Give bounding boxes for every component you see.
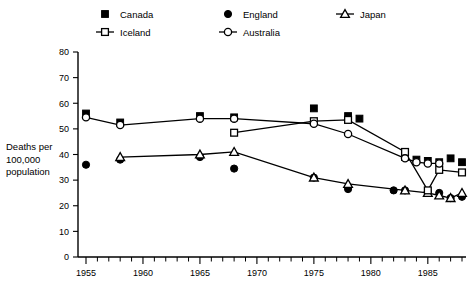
legend-marker-iceland: [102, 29, 109, 36]
y-axis-tick-label: 50: [59, 124, 69, 134]
y-axis-title-line: 100,000: [6, 154, 40, 165]
data-point-australia: [413, 159, 420, 166]
series-markers-australia: [82, 114, 442, 167]
x-axis-tick-label: 1980: [361, 268, 381, 278]
data-point-iceland: [424, 187, 431, 194]
data-point-japan: [230, 148, 239, 156]
y-axis-tick-label: 70: [59, 73, 69, 83]
y-axis-tick-label: 30: [59, 175, 69, 185]
legend-item-iceland[interactable]: Iceland: [96, 27, 151, 38]
data-point-canada: [459, 159, 466, 166]
series-japan: [120, 152, 462, 198]
legend-item-australia[interactable]: Australia: [219, 27, 281, 38]
data-point-england: [231, 165, 238, 172]
mortality-line-chart: CanadaEnglandJapanIcelandAustralia 01020…: [0, 0, 472, 295]
legend-label-japan: Japan: [360, 9, 386, 20]
data-point-england: [82, 161, 89, 168]
data-point-australia: [424, 160, 431, 167]
x-axis-tick-label: 1975: [304, 268, 324, 278]
data-point-australia: [401, 155, 408, 162]
x-axis-tick-label: 1955: [76, 268, 96, 278]
legend-item-canada[interactable]: Canada: [102, 9, 154, 20]
data-point-iceland: [231, 129, 238, 136]
legend-item-japan[interactable]: Japan: [336, 9, 386, 20]
x-axis-tick-label: 1970: [247, 268, 267, 278]
data-point-australia: [344, 130, 351, 137]
data-point-australia: [436, 160, 443, 167]
data-point-japan: [458, 189, 467, 197]
y-axis-title: Deaths per100,000population: [6, 141, 52, 177]
legend-marker-australia: [224, 28, 231, 35]
legend-marker-england: [224, 10, 231, 17]
legend-item-england[interactable]: England: [224, 9, 277, 20]
y-axis-title-line: population: [6, 166, 50, 177]
legend-marker-canada: [102, 11, 109, 18]
series-line-japan: [120, 152, 462, 198]
y-axis-tick-label: 20: [59, 201, 69, 211]
data-point-australia: [231, 115, 238, 122]
y-axis-tick-label: 40: [59, 150, 69, 160]
data-point-canada: [447, 155, 454, 162]
legend-label-iceland: Iceland: [120, 27, 151, 38]
data-point-england: [390, 187, 397, 194]
data-point-canada: [356, 115, 363, 122]
legend-label-england: England: [243, 9, 278, 20]
x-axis-tick-label: 1960: [133, 268, 153, 278]
y-axis-tick-label: 60: [59, 99, 69, 109]
chart-container: CanadaEnglandJapanIcelandAustralia 01020…: [0, 0, 472, 295]
data-point-australia: [310, 120, 317, 127]
y-axis-tick-label: 80: [59, 47, 69, 57]
data-point-canada: [310, 105, 317, 112]
chart-legend: CanadaEnglandJapanIcelandAustralia: [96, 9, 386, 38]
data-point-australia: [82, 114, 89, 121]
data-point-australia: [117, 121, 124, 128]
y-axis-tick-label: 0: [64, 252, 69, 262]
legend-label-australia: Australia: [243, 27, 281, 38]
y-axis-tick-label: 10: [59, 227, 69, 237]
x-axis-tick-label: 1985: [418, 268, 438, 278]
data-point-australia: [196, 115, 203, 122]
data-point-iceland: [345, 117, 352, 124]
data-point-iceland: [459, 169, 466, 176]
y-axis-title-line: Deaths per: [6, 141, 52, 152]
x-axis-tick-label: 1965: [190, 268, 210, 278]
legend-label-canada: Canada: [120, 9, 154, 20]
chart-series-layer: [82, 105, 466, 202]
